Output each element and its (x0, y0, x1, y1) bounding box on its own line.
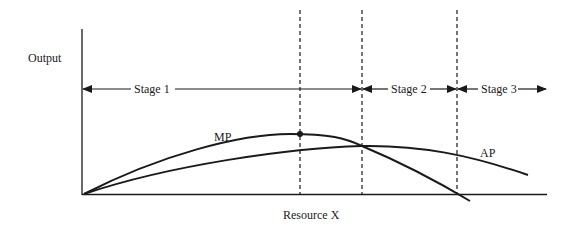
stage-2-label: Stage 2 (391, 82, 427, 96)
ap-label: AP (480, 146, 496, 160)
x-axis-label: Resource X (283, 208, 340, 222)
mp-max-point (297, 131, 303, 137)
production-stages-diagram: Output Resource X Stage 1 Stage 2 Stage … (0, 0, 572, 231)
stage-1-span: Stage 1 (83, 82, 361, 96)
stage-3-span: Stage 3 (458, 82, 546, 96)
y-axis-label: Output (28, 51, 62, 65)
mp-curve (84, 134, 470, 201)
ap-curve (84, 146, 528, 194)
stage-2-span: Stage 2 (363, 82, 456, 96)
stage-1-label: Stage 1 (134, 82, 170, 96)
stage-3-label: Stage 3 (481, 82, 517, 96)
mp-label: MP (214, 130, 232, 144)
